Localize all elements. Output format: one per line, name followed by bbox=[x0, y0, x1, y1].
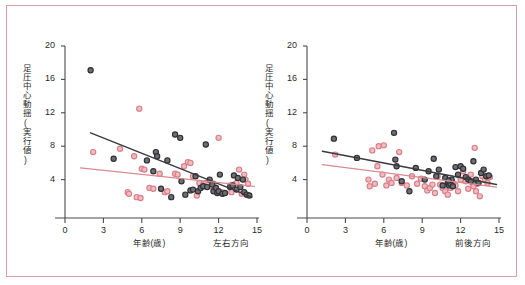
data-point bbox=[461, 166, 466, 171]
x-tick-label: 0 bbox=[298, 226, 316, 235]
data-point bbox=[370, 148, 375, 153]
y-tick-label: 16 bbox=[39, 74, 55, 83]
y-tick-label: 4 bbox=[39, 175, 55, 184]
chart-panel-left: 4812162003691215 足圧中心動揺(実行値) 年齢(歳) 左右方向 bbox=[15, 6, 265, 278]
data-point bbox=[440, 183, 445, 188]
data-point bbox=[137, 106, 142, 111]
chart-panel-right: 4812162003691215 足圧中心動揺(実行値) 年齢(歳) 前後方向 bbox=[257, 6, 507, 278]
data-point bbox=[394, 175, 399, 180]
data-point bbox=[376, 144, 381, 149]
data-point bbox=[151, 169, 156, 174]
regression-line-dark bbox=[91, 133, 252, 197]
y-tick-label: 12 bbox=[281, 108, 297, 117]
data-point bbox=[175, 172, 180, 177]
y-axis-title-left: 足圧中心動揺(実行値) bbox=[21, 64, 30, 165]
data-point bbox=[436, 167, 441, 172]
data-point bbox=[393, 157, 398, 162]
data-point bbox=[165, 189, 170, 194]
data-point bbox=[222, 190, 227, 195]
data-point bbox=[235, 175, 240, 180]
data-point bbox=[217, 172, 222, 177]
data-point bbox=[188, 160, 193, 165]
data-point bbox=[236, 167, 241, 172]
data-point bbox=[366, 177, 371, 182]
data-point bbox=[407, 189, 412, 194]
y-tick-label: 12 bbox=[39, 108, 55, 117]
data-point bbox=[111, 156, 116, 161]
data-point bbox=[445, 192, 450, 197]
x-tick-label: 15 bbox=[490, 226, 508, 235]
data-point bbox=[172, 132, 177, 137]
data-point bbox=[142, 167, 147, 172]
data-point bbox=[414, 181, 419, 186]
data-point bbox=[132, 154, 137, 159]
data-point bbox=[466, 186, 471, 191]
data-point bbox=[384, 183, 389, 188]
data-point bbox=[204, 185, 209, 190]
direction-label-right: 前後方向 bbox=[455, 239, 491, 248]
data-point bbox=[183, 192, 188, 197]
data-point bbox=[434, 174, 439, 179]
data-point bbox=[472, 145, 477, 150]
data-point bbox=[169, 195, 174, 200]
data-point bbox=[144, 158, 149, 163]
data-point bbox=[397, 149, 402, 154]
data-point bbox=[158, 186, 163, 191]
data-point bbox=[178, 135, 183, 140]
data-point bbox=[471, 159, 476, 164]
data-point bbox=[391, 130, 396, 135]
data-point bbox=[477, 194, 482, 199]
data-point bbox=[240, 177, 245, 182]
y-tick-label: 16 bbox=[281, 74, 297, 83]
data-point bbox=[473, 189, 478, 194]
data-point bbox=[179, 179, 184, 184]
data-point bbox=[190, 187, 195, 192]
data-point bbox=[216, 135, 221, 140]
y-tick-label: 8 bbox=[281, 141, 297, 150]
data-point bbox=[432, 190, 437, 195]
y-tick-label: 4 bbox=[281, 175, 297, 184]
data-point bbox=[242, 172, 247, 177]
data-point bbox=[151, 186, 156, 191]
figure-border-frame: 4812162003691215 足圧中心動揺(実行値) 年齢(歳) 左右方向 … bbox=[6, 5, 517, 277]
x-axis-title-left: 年齢(歳) bbox=[133, 239, 166, 248]
x-tick-label: 6 bbox=[375, 226, 393, 235]
data-point bbox=[431, 156, 436, 161]
y-axis-title-right: 足圧中心動揺(実行値) bbox=[263, 64, 272, 165]
figure-root: 4812162003691215 足圧中心動揺(実行値) 年齢(歳) 左右方向 … bbox=[0, 0, 525, 285]
x-tick-label: 9 bbox=[413, 226, 431, 235]
x-tick-label: 6 bbox=[133, 226, 151, 235]
data-point bbox=[404, 183, 409, 188]
x-tick-label: 3 bbox=[336, 226, 354, 235]
data-point bbox=[389, 180, 394, 185]
x-tick-label: 12 bbox=[452, 226, 470, 235]
x-tick-label: 12 bbox=[210, 226, 228, 235]
data-point bbox=[453, 164, 458, 169]
x-tick-label: 0 bbox=[56, 226, 74, 235]
data-point bbox=[468, 172, 473, 177]
data-point bbox=[481, 167, 486, 172]
data-point bbox=[367, 184, 372, 189]
data-point bbox=[430, 182, 435, 187]
data-point bbox=[203, 142, 208, 147]
data-point bbox=[126, 191, 131, 196]
regression-line-pink bbox=[80, 168, 254, 186]
data-point bbox=[455, 189, 460, 194]
data-point bbox=[399, 179, 404, 184]
data-point bbox=[331, 136, 336, 141]
data-point bbox=[381, 143, 386, 148]
data-point bbox=[138, 195, 143, 200]
data-point bbox=[450, 184, 455, 189]
data-point bbox=[88, 68, 93, 73]
data-point bbox=[486, 173, 491, 178]
data-point bbox=[117, 146, 122, 151]
direction-label-left: 左右方向 bbox=[213, 239, 249, 248]
y-tick-label: 20 bbox=[281, 41, 297, 50]
data-point bbox=[375, 164, 380, 169]
x-tick-label: 9 bbox=[171, 226, 189, 235]
y-tick-label: 20 bbox=[39, 41, 55, 50]
x-tick-label: 3 bbox=[94, 226, 112, 235]
x-axis-title-right: 年齢(歳) bbox=[375, 239, 408, 248]
data-point bbox=[91, 149, 96, 154]
y-tick-label: 8 bbox=[39, 141, 55, 150]
